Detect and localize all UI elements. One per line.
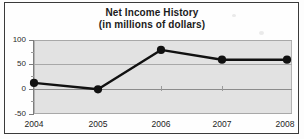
- data-point-2004: [30, 79, 38, 87]
- scan-speck: [259, 31, 264, 35]
- data-point-2006: [157, 46, 165, 54]
- scan-speck: [232, 14, 236, 17]
- data-point-2007: [218, 56, 226, 64]
- series-line: [34, 50, 287, 89]
- data-series-layer: [0, 0, 304, 139]
- data-point-2005: [94, 85, 102, 93]
- chart-screenshot: Net Income History (in millions of dolla…: [0, 0, 304, 139]
- data-point-2008: [283, 56, 291, 64]
